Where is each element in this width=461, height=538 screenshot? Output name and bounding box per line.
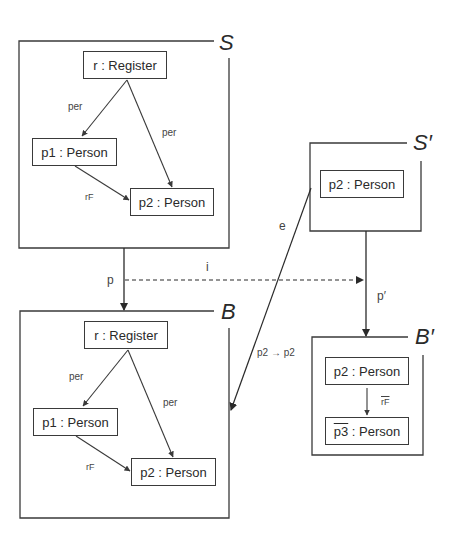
graph-label-S: S xyxy=(219,30,234,56)
edge-B-r-p1 xyxy=(83,350,128,406)
morphism-label-p: p xyxy=(107,273,114,287)
morphism-label-p-prime: p′ xyxy=(377,289,386,303)
graph-label-B-prime: B′ xyxy=(415,324,434,350)
node-S-p2-person: p2 : Person xyxy=(130,188,214,216)
node-Sp-p2-person: p2 : Person xyxy=(320,170,404,198)
graph-label-S-prime: S′ xyxy=(413,130,432,156)
edge-label-rF: rF xyxy=(86,462,95,472)
edge-label-per: per xyxy=(69,371,83,382)
graph-label-B: B xyxy=(221,299,236,325)
edge-B-p1-p2 xyxy=(76,436,130,471)
node-var-p3: p3 xyxy=(334,424,348,439)
node-B-p2-person: p2 : Person xyxy=(131,458,216,486)
edge-label-per: per xyxy=(163,397,177,408)
node-S-register: r : Register xyxy=(83,51,167,79)
morphism-label-i: i xyxy=(206,260,209,274)
edge-label-rF: rF xyxy=(85,192,94,202)
node-S-p1-person: p1 : Person xyxy=(32,138,117,166)
morphism-e xyxy=(231,188,311,410)
node-B-register: r : Register xyxy=(84,321,168,349)
morphism-mapping-e: p2 → p2 xyxy=(257,347,295,358)
edge-label-per: per xyxy=(68,101,82,112)
node-Bp-p2-person: p2 : Person xyxy=(325,357,409,385)
edge-label-per: per xyxy=(162,127,176,138)
edge-label-rF-bar: rF xyxy=(381,397,390,407)
edge-S-p1-p2 xyxy=(75,166,129,200)
edge-S-r-p1 xyxy=(82,80,127,136)
node-B-p1-person: p1 : Person xyxy=(33,408,118,436)
node-Bp-p3-person: p3 : Person xyxy=(325,417,409,445)
morphism-label-e: e xyxy=(279,219,286,233)
diagram-lines xyxy=(0,0,461,538)
